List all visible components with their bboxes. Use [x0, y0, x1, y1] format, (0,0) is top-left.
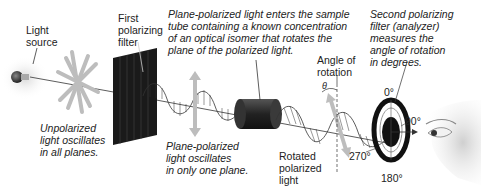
dial-label-270: 270°	[349, 150, 371, 162]
first-filter-label: First polarizing filter	[118, 12, 163, 48]
unpolarized-arrows-icon	[58, 52, 98, 112]
sample-tube-caption: Plane-polarized light enters the sample …	[168, 8, 350, 56]
first-polarizing-filter	[113, 42, 157, 145]
dial-label-180: 180°	[381, 172, 403, 184]
dial-label-90: 90°	[405, 115, 421, 127]
second-filter-caption: Second polarizing filter (analyzer) meas…	[370, 8, 453, 68]
unpolarized-caption: Unpolarized light oscillates in all plan…	[40, 122, 105, 158]
dial-label-0: 0°	[384, 86, 394, 98]
analyzer-dial	[366, 62, 418, 160]
vertical-polarization-arrow-icon	[189, 71, 201, 137]
light-source-label: Light source	[26, 24, 58, 48]
angle-of-rotation-label: Angle of rotation	[317, 54, 356, 78]
light-source-icon	[1, 48, 49, 100]
observer-eye-icon	[421, 100, 481, 185]
plane-polarized-caption: Plane-polarized light oscillates in only…	[166, 140, 248, 176]
rotated-polarization-arrow-icon	[326, 93, 351, 158]
theta-label: θ	[322, 80, 327, 92]
plane-polarized-wave	[143, 84, 240, 121]
sample-tube	[234, 60, 282, 129]
rotated-light-label: Rotated polarized light	[279, 150, 322, 186]
rotated-polarized-wave	[276, 106, 385, 148]
